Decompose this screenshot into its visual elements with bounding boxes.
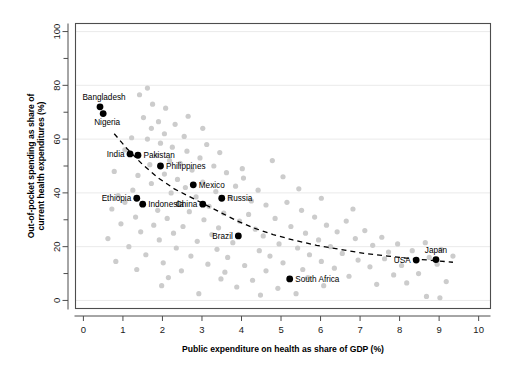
data-point-background xyxy=(410,248,415,253)
data-point-background xyxy=(134,267,139,272)
x-axis-tick-label: 5 xyxy=(278,324,283,335)
data-point-highlighted xyxy=(157,163,164,170)
data-point-background xyxy=(211,163,216,168)
data-point-label: Mexico xyxy=(199,181,225,190)
data-point-background xyxy=(133,214,138,219)
data-point-background xyxy=(319,259,324,264)
data-point-background xyxy=(225,255,230,260)
data-point-highlighted xyxy=(413,257,420,264)
data-point-label: Brazil xyxy=(212,232,233,241)
y-axis-tick-label: 80 xyxy=(51,80,62,91)
data-point-background xyxy=(335,229,340,234)
data-point-highlighted xyxy=(135,152,142,159)
data-point-background xyxy=(257,248,262,253)
data-point-background xyxy=(170,145,175,150)
data-point-background xyxy=(386,249,391,254)
x-axis-tick-label: 0 xyxy=(81,324,86,335)
data-point-background xyxy=(256,188,261,193)
data-point-background xyxy=(276,241,281,246)
data-point-label: Pakistan xyxy=(143,151,175,160)
data-point-background xyxy=(138,229,143,234)
data-point-background xyxy=(197,155,202,160)
data-point-background xyxy=(105,236,110,241)
data-point-background xyxy=(217,150,222,155)
data-point-background xyxy=(163,106,168,111)
data-point-highlighted xyxy=(433,256,440,263)
data-point-background xyxy=(158,141,163,146)
y-axis-tick-label: 20 xyxy=(51,241,62,252)
data-point-background xyxy=(241,175,246,180)
data-point-background xyxy=(179,268,184,273)
data-point-highlighted xyxy=(139,201,146,208)
data-point-background xyxy=(332,266,337,271)
data-point-background xyxy=(444,279,449,284)
data-point-label: Ethiopia xyxy=(102,194,132,203)
data-point-background xyxy=(162,131,167,136)
data-point-background xyxy=(299,208,304,213)
data-point-background xyxy=(267,253,272,258)
data-point-background xyxy=(362,228,367,233)
data-point-background xyxy=(263,268,268,273)
data-point-background xyxy=(135,173,140,178)
x-axis-tick-label: 7 xyxy=(357,324,362,335)
data-point-background xyxy=(171,231,176,236)
x-axis-tick-label: 10 xyxy=(473,324,484,335)
data-point-background xyxy=(186,114,191,119)
x-axis-tick-label: 2 xyxy=(160,324,165,335)
data-point-background xyxy=(173,122,178,127)
data-point-background xyxy=(319,196,324,201)
data-point-background xyxy=(312,214,317,219)
data-point-background xyxy=(367,264,372,269)
data-point-background xyxy=(234,284,239,289)
data-point-background xyxy=(201,217,206,222)
x-axis-tick-label: 6 xyxy=(318,324,323,335)
x-axis-tick-label: 9 xyxy=(436,324,441,335)
data-point-background xyxy=(193,194,198,199)
x-axis-tick-label: 1 xyxy=(120,324,125,335)
data-point-background xyxy=(263,202,268,207)
data-point-background xyxy=(423,240,428,245)
data-point-background xyxy=(174,245,179,250)
data-point-background xyxy=(346,274,351,279)
data-point-background xyxy=(355,258,360,263)
data-point-background xyxy=(280,174,285,179)
data-point-background xyxy=(324,223,329,228)
data-point-background xyxy=(180,224,185,229)
data-point-background xyxy=(175,177,180,182)
data-point-highlighted xyxy=(218,195,225,202)
data-point-background xyxy=(204,142,209,147)
data-point-background xyxy=(300,267,305,272)
data-point-background xyxy=(159,283,164,288)
data-point-background xyxy=(161,260,166,265)
data-point-label: China xyxy=(176,200,198,209)
data-point-background xyxy=(145,137,150,142)
data-point-highlighted xyxy=(199,201,206,208)
data-point-background xyxy=(112,169,117,174)
data-point-background xyxy=(328,244,333,249)
data-point-background xyxy=(424,294,429,299)
data-point-background xyxy=(261,233,266,238)
data-point-background xyxy=(187,209,192,214)
data-point-background xyxy=(182,134,187,139)
data-point-highlighted xyxy=(133,195,140,202)
data-point-background xyxy=(109,206,114,211)
y-axis-title-line2: current health expenditures (%) xyxy=(36,101,46,230)
x-axis-tick-label: 8 xyxy=(397,324,402,335)
data-point-background xyxy=(404,280,409,285)
data-point-background xyxy=(224,170,229,175)
data-point-background xyxy=(233,184,238,189)
data-point-background xyxy=(151,223,156,228)
data-point-background xyxy=(141,115,146,120)
data-point-background xyxy=(258,292,263,297)
data-point-background xyxy=(149,126,154,131)
data-point-highlighted xyxy=(286,276,293,283)
data-point-label: South Africa xyxy=(295,275,340,284)
data-point-highlighted xyxy=(235,233,242,240)
data-point-highlighted xyxy=(190,181,197,188)
data-point-background xyxy=(307,252,312,257)
data-point-background xyxy=(284,200,289,205)
data-point-background xyxy=(296,186,301,191)
data-point-background xyxy=(196,291,201,296)
data-point-background xyxy=(450,253,455,258)
data-point-background xyxy=(118,221,123,226)
